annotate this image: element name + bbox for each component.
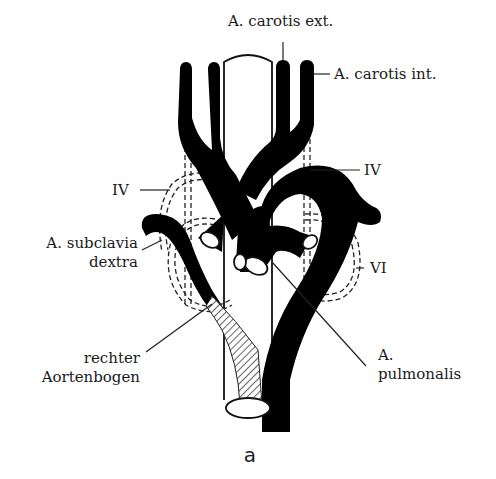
- label-carotis-int: A. carotis int.: [333, 65, 436, 83]
- label-arch-vi: VI: [369, 259, 387, 277]
- label-arch-iv-left: IV: [364, 161, 382, 179]
- aortic-arch-diagram: A. carotis ext. A. carotis int. IV IV A.…: [0, 0, 496, 479]
- label-aortenbogen-1: rechter: [84, 349, 141, 367]
- label-carotis-ext: A. carotis ext.: [227, 12, 333, 30]
- label-subclavia-2: dextra: [89, 253, 138, 271]
- label-aortenbogen-2: Aortenbogen: [41, 368, 141, 386]
- label-subclavia-1: A. subclavia: [45, 234, 138, 252]
- label-pulmonalis-1: A.: [377, 346, 394, 364]
- label-pulmonalis-2: pulmonalis: [378, 365, 461, 383]
- label-arch-iv-right: IV: [112, 181, 130, 199]
- figure-caption: a: [244, 443, 256, 467]
